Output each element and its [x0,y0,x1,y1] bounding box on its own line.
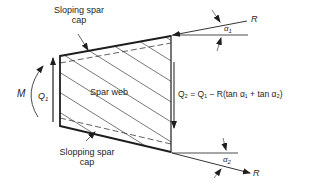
alpha2-pointer-top [223,138,226,150]
alpha2-label: α2 [223,155,231,167]
q1-subscript: 1 [45,96,48,102]
bottom-force-arrow [172,153,250,173]
alpha1-pointer-top [212,10,220,22]
bottom-cap-dashed-line [60,118,171,144]
top-cap-label-line1: Sloping spar [44,5,114,15]
alpha2-pointer-bottom [214,169,221,178]
alpha2-subscript: 2 [228,159,231,165]
top-force-label: R [251,14,258,24]
bottom-cap-label-line2: cap [52,157,122,167]
alpha1-subscript: 1 [229,28,232,34]
q1-symbol: Q [38,91,45,101]
bottom-cap-label-line1: Slopping spar [52,147,122,157]
q1-label: Q1 [38,91,48,104]
spar-web-label: Spar web [90,87,128,97]
alpha1-label: α1 [224,24,232,36]
moment-label: M [17,89,25,99]
top-cap-label-line2: cap [44,15,114,25]
shear-equation: Q₂ = Q₁ − R(tan α₁ + tan α₂) [178,89,283,99]
top-cap-leader [78,34,88,50]
alpha1-pointer-bottom [217,38,221,51]
bottom-cap-label: Slopping spar cap [52,147,122,167]
top-force-arrow [173,21,247,35]
top-cap-label: Sloping spar cap [44,5,114,25]
bottom-force-label: R [253,168,260,178]
